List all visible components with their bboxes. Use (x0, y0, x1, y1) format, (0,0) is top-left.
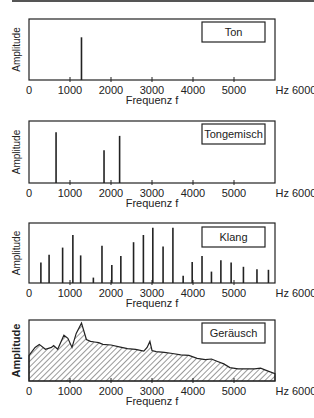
y-axis-label: Amplitude (11, 230, 22, 275)
chart-gerausch: 010002000300040005000Hz 6000Frequenz fAm… (0, 311, 314, 418)
legend-label: Geräusch (210, 327, 258, 339)
x-tick-label: 5000 (222, 84, 246, 96)
legend-label: Tongemisch (204, 128, 263, 140)
top-rule (12, 0, 314, 2)
x-tick-label: 2000 (99, 385, 123, 397)
y-axis-label: Amplitude (10, 324, 22, 378)
x-tick-label: 4000 (181, 84, 205, 96)
x-tick-label: Hz 6000 (276, 385, 314, 397)
x-tick-label: 4000 (181, 287, 205, 299)
chart-klang: 010002000300040005000Hz 6000Frequenz fAm… (0, 210, 314, 310)
x-tick-label: Hz 6000 (276, 187, 314, 199)
x-tick-label: Hz 6000 (276, 287, 314, 299)
x-tick-label: 5000 (222, 287, 246, 299)
chart-svg: 010002000300040005000Hz 6000Frequenz fAm… (0, 210, 314, 310)
legend-label: Ton (225, 26, 243, 38)
x-tick-label: 5000 (222, 385, 246, 397)
x-tick-label: 0 (26, 385, 32, 397)
chart-svg: 010002000300040005000Hz 6000Frequenz fAm… (0, 8, 314, 108)
x-tick-label: 0 (26, 84, 32, 96)
y-axis-label: Amplitude (11, 129, 22, 174)
legend-label: Klang (219, 231, 247, 243)
x-tick-label: 4000 (181, 385, 205, 397)
y-axis-label: Amplitude (11, 27, 22, 72)
chart-ton: 010002000300040005000Hz 6000Frequenz fAm… (0, 8, 314, 108)
x-tick-label: 2000 (99, 187, 123, 199)
x-tick-label: 5000 (222, 187, 246, 199)
x-tick-label: 1000 (58, 84, 82, 96)
x-tick-label: 4000 (181, 187, 205, 199)
x-axis-label: Frequenz f (126, 297, 180, 309)
x-axis-label: Frequenz f (126, 197, 180, 209)
x-tick-label: 0 (26, 187, 32, 199)
chart-tongemisch: 010002000300040005000Hz 6000Frequenz fAm… (0, 111, 314, 211)
x-tick-label: 0 (26, 287, 32, 299)
x-tick-label: 2000 (99, 287, 123, 299)
x-tick-label: 1000 (58, 385, 82, 397)
x-tick-label: 1000 (58, 287, 82, 299)
x-tick-label: 2000 (99, 84, 123, 96)
chart-svg: 010002000300040005000Hz 6000Frequenz fAm… (0, 111, 314, 211)
x-axis-label: Frequenz f (126, 94, 180, 106)
x-axis-label: Frequenz f (126, 395, 180, 407)
x-tick-label: 1000 (58, 187, 82, 199)
chart-svg: 010002000300040005000Hz 6000Frequenz fAm… (0, 311, 314, 418)
x-tick-label: Hz 6000 (276, 84, 314, 96)
